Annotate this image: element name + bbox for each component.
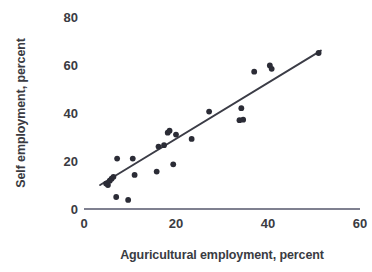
data-point [111,174,117,180]
data-point [113,194,119,200]
x-tick-label: 20 [169,216,183,231]
x-tick-label: 0 [80,216,87,231]
data-point [238,105,244,111]
y-tick-label: 40 [64,106,78,121]
trend-line [100,51,321,185]
data-point [167,128,173,134]
scatter-plot-figure: 020406080 0204060 Aguricultural employme… [0,0,372,272]
data-point [132,172,138,178]
y-tick-label: 80 [64,10,78,25]
data-point [125,197,131,203]
x-tick-label: 60 [353,216,367,231]
data-point [189,136,195,142]
y-axis-tick-labels: 020406080 [64,10,78,217]
data-point [240,117,246,123]
data-point [206,109,212,115]
data-point [130,156,136,162]
data-point [154,169,160,175]
data-point [269,66,275,72]
y-tick-label: 60 [64,58,78,73]
y-tick-label: 20 [64,154,78,169]
x-axis-title: Aguricultural employment, percent [120,248,325,262]
data-point-group [103,50,321,203]
data-point [251,69,257,75]
y-axis-title: Self employment, percent [14,37,28,188]
plot-canvas: 020406080 0204060 Aguricultural employme… [0,0,372,272]
x-tick-label: 40 [261,216,275,231]
data-point [170,161,176,167]
data-point [161,142,167,148]
data-point [173,132,179,138]
data-point [114,156,120,162]
data-point [316,50,322,56]
data-point [156,144,162,150]
y-tick-label: 0 [71,202,78,217]
x-axis-tick-labels: 0204060 [80,216,367,231]
